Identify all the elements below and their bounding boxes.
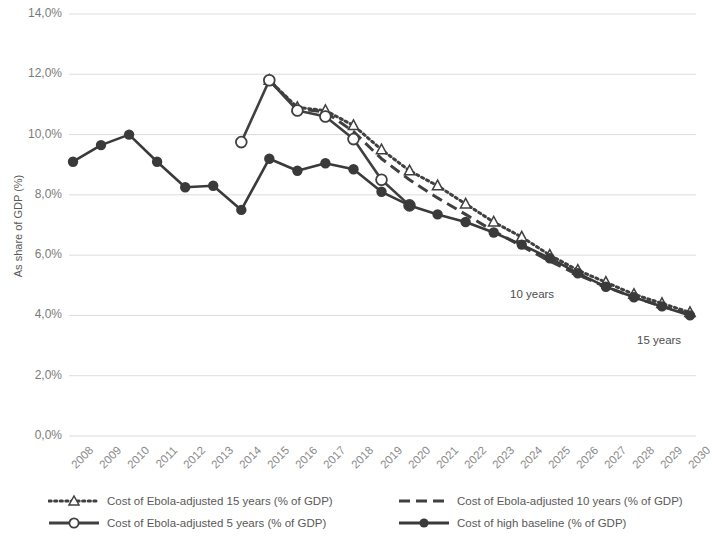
series-ebola15 [264,75,695,317]
data-point [320,111,331,122]
series-line [241,80,409,205]
data-point [404,165,414,175]
chart-legend: Cost of Ebola-adjusted 15 years (% of GD… [0,492,728,538]
annotation-15-years: 15 years [637,334,681,346]
legend-item-ebola15[interactable]: Cost of Ebola-adjusted 15 years (% of GD… [48,494,333,508]
data-point [489,216,499,226]
y-tick-label: 10,0% [8,127,62,141]
y-tick-label: 0,0% [8,428,62,442]
chart-container: As share of GDP (%) 0,0%2,0%4,0%6,0%8,0%… [0,0,728,538]
legend-key-ebola10 [398,494,450,508]
data-point [236,137,247,148]
data-point [376,187,386,197]
data-point [320,158,330,168]
data-point [460,217,470,227]
data-point [657,301,667,311]
y-tick-label: 12,0% [8,66,62,80]
data-point [152,157,162,167]
data-point [292,105,303,116]
y-tick-label: 14,0% [8,6,62,20]
data-point [68,157,78,167]
data-point [124,129,134,139]
data-point [432,209,442,219]
data-point [376,174,387,185]
legend-item-baseline[interactable]: Cost of high baseline (% of GDP) [398,516,626,530]
y-tick-label: 4,0% [8,307,62,321]
data-point [404,200,414,210]
data-point [460,198,470,208]
y-tick-label: 2,0% [8,368,62,382]
series-layer [68,75,695,321]
data-point [180,182,190,192]
legend-key-ebola5 [48,516,100,530]
data-point [236,205,246,215]
data-point [264,75,275,86]
series-ebola10 [269,80,690,314]
series-line [269,80,690,314]
data-point [264,154,274,164]
data-point [601,282,611,292]
y-tick-label: 6,0% [8,247,62,261]
data-point [432,180,442,190]
legend-key-baseline [398,516,450,530]
annotation-10-years: 10 years [510,288,554,300]
legend-label: Cost of Ebola-adjusted 15 years (% of GD… [107,494,333,508]
legend-item-ebola5[interactable]: Cost of Ebola-adjusted 5 years (% of GDP… [48,516,326,530]
data-point [96,140,106,150]
legend-item-ebola10[interactable]: Cost of Ebola-adjusted 10 years (% of GD… [398,494,683,508]
data-point [348,134,359,145]
gridlines [69,14,696,436]
data-point [517,239,527,249]
data-point [489,227,499,237]
y-axis-title: As share of GDP (%) [12,146,24,306]
data-point [629,292,639,302]
legend-label: Cost of Ebola-adjusted 5 years (% of GDP… [107,516,326,530]
data-point [545,253,555,263]
data-point [208,181,218,191]
legend-label: Cost of Ebola-adjusted 10 years (% of GD… [457,494,683,508]
legend-key-ebola15 [48,494,100,508]
data-point [573,268,583,278]
data-point [348,164,358,174]
legend-label: Cost of high baseline (% of GDP) [457,516,626,530]
y-tick-label: 8,0% [8,187,62,201]
series-line [73,135,690,316]
data-point [685,310,695,320]
data-point [292,166,302,176]
series-ebola5 [236,75,415,211]
